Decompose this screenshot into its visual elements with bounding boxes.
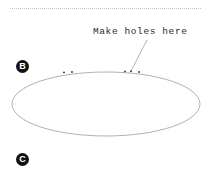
hole-mark [124, 70, 126, 72]
oval-outline [12, 72, 200, 136]
hole-mark [138, 71, 140, 73]
oval-figure-layer [0, 0, 214, 171]
figure-panel: Make holes here B C [0, 0, 214, 171]
hole-mark [71, 71, 73, 73]
step-badge-b: B [16, 60, 29, 73]
hole-mark [130, 70, 132, 72]
step-badge-c: C [16, 153, 29, 166]
hole-mark [63, 71, 65, 73]
